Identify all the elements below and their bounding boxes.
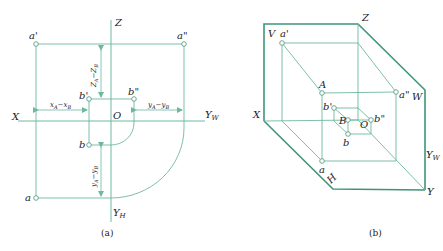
axis-y-label: Y xyxy=(427,186,435,197)
point-a-double-prime xyxy=(182,42,187,47)
x-diff-label: xA−xB xyxy=(50,101,71,110)
label-b-prime: b' xyxy=(79,90,88,101)
point-b xyxy=(346,132,351,137)
panel-b: Z V a' A a" W b' B b" O b X a H YW Y (b) xyxy=(252,12,441,238)
point-a xyxy=(34,196,39,201)
label-a-prime: a' xyxy=(280,28,289,39)
plane-v-label: V xyxy=(268,28,277,39)
y-diff-h-label: yA−yB xyxy=(90,166,99,188)
axis-yw-label: YW xyxy=(426,149,441,162)
label-B: B xyxy=(338,115,346,126)
axis-z-label: Z xyxy=(114,17,123,28)
label-a-prime: a' xyxy=(29,30,38,41)
A-to-a-double-prime xyxy=(322,92,396,93)
axis-yh-label: YH xyxy=(113,207,127,220)
axis-z-label: Z xyxy=(361,12,370,23)
axis-x-label: X xyxy=(11,111,20,122)
caption-a: (a) xyxy=(101,228,113,238)
a-transfer-arc xyxy=(111,128,184,198)
b-transfer-arc xyxy=(111,123,134,145)
point-b-double-prime xyxy=(132,97,137,102)
point-a-prime xyxy=(280,41,285,46)
origin-label: O xyxy=(360,119,368,130)
y-axis xyxy=(358,120,425,190)
label-a-double-prime: a" xyxy=(399,89,410,100)
label-b: b xyxy=(343,137,349,148)
point-a xyxy=(320,159,325,164)
label-a: a xyxy=(25,192,31,203)
z-diff-label: ZA−ZB xyxy=(90,64,99,88)
label-b-prime: b' xyxy=(323,101,332,112)
origin-label: O xyxy=(113,110,121,121)
caption-b: (b) xyxy=(369,228,382,238)
plane-h-label: H xyxy=(324,171,339,186)
label-a-double-prime: a" xyxy=(177,30,188,41)
axis-yw-label: YW xyxy=(205,109,220,122)
z-to-a-double-prime xyxy=(358,43,396,92)
point-b-double-prime xyxy=(369,118,374,123)
y-diff-w-label: yA−yB xyxy=(147,101,169,110)
plane-w-label: W xyxy=(412,91,423,102)
projection-diagram: Z X O YW YH a' a" b' b" b a ZA−ZB xA−xB … xyxy=(0,0,443,251)
label-b-double-prime: b" xyxy=(374,113,385,124)
point-a-double-prime xyxy=(394,90,399,95)
x-to-a xyxy=(282,121,322,161)
point-b-prime xyxy=(332,106,337,111)
label-b: b xyxy=(79,139,85,150)
panel-a: Z X O YW YH a' a" b' b" b a ZA−ZB xA−xB … xyxy=(11,17,220,238)
point-a-prime xyxy=(34,42,39,47)
point-B xyxy=(346,118,351,123)
axis-x-label: X xyxy=(252,109,261,120)
point-A xyxy=(320,91,325,96)
label-A: A xyxy=(318,79,326,90)
label-b-double-prime: b" xyxy=(128,86,139,97)
point-b xyxy=(87,143,92,148)
label-a: a xyxy=(319,164,325,175)
a-prime-to-A xyxy=(282,43,322,93)
